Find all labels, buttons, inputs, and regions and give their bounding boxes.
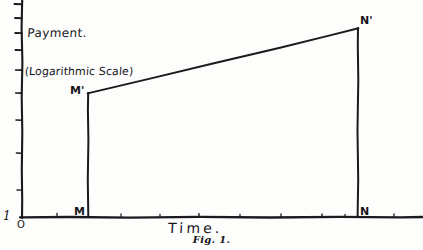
ordinate-mm-prime bbox=[88, 93, 89, 217]
vertex-label-n: N bbox=[360, 205, 369, 218]
vertex-label-m-prime: M' bbox=[70, 84, 84, 97]
vertex-label-m: M bbox=[74, 205, 85, 218]
y-axis-title-line2: (Logarithmic Scale) bbox=[24, 66, 134, 78]
y-axis-base-value-label: 1 bbox=[3, 209, 11, 223]
figure-caption: Fig. 1. bbox=[0, 234, 423, 245]
figure-container: Payment. (Logarithmic Scale) Time. M' N'… bbox=[0, 0, 423, 250]
origin-label: O bbox=[17, 219, 25, 230]
ordinate-nn-prime bbox=[358, 28, 359, 217]
y-axis-title-line1: Payment. bbox=[27, 27, 137, 40]
vertex-label-n-prime: N' bbox=[360, 14, 373, 27]
